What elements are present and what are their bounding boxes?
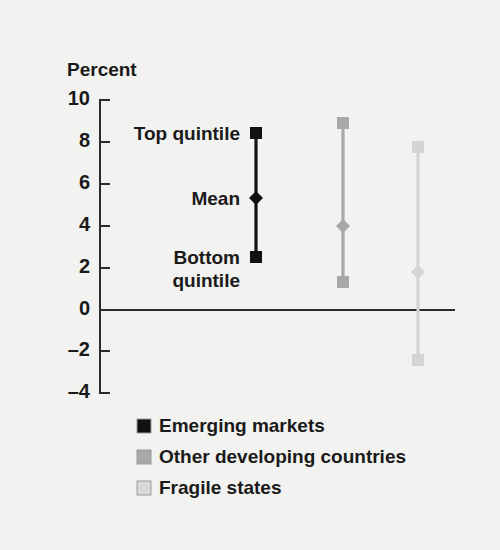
y-tick-label-10: 10 (68, 87, 90, 109)
annotation-mean: Mean (191, 188, 240, 209)
chart-figure: Percent 10 8 6 4 2 0 –2 –4 Top quintile … (0, 0, 500, 550)
chart-svg: Percent 10 8 6 4 2 0 –2 –4 Top quintile … (0, 0, 500, 550)
series-emerging-bottom-quintile-marker (250, 251, 262, 263)
legend-item-fragile-states[interactable]: Fragile states (137, 477, 282, 498)
y-tick-label-minus2: –2 (68, 338, 90, 360)
y-tick-label-8: 8 (79, 129, 90, 151)
y-tick-label-2: 2 (79, 255, 90, 277)
legend-swatch-icon (137, 450, 151, 464)
series-fragile-bottom-quintile-marker (412, 354, 424, 366)
annotation-bottom-quintile-line2: quintile (172, 270, 240, 291)
annotation-top-quintile: Top quintile (134, 123, 240, 144)
legend-swatch-icon (137, 481, 151, 495)
legend-item-other-developing-countries[interactable]: Other developing countries (137, 446, 406, 467)
chart-background (0, 0, 500, 550)
legend-label-emerging-markets: Emerging markets (159, 415, 325, 436)
annotation-bottom-quintile-line1: Bottom (174, 247, 240, 268)
series-fragile-top-quintile-marker (412, 141, 424, 153)
y-tick-label-minus4: –4 (68, 380, 91, 402)
legend-label-fragile-states: Fragile states (159, 477, 282, 498)
series-other-bottom-quintile-marker (337, 276, 349, 288)
y-tick-label-6: 6 (79, 171, 90, 193)
y-axis-title: Percent (67, 59, 137, 80)
y-tick-label-4: 4 (79, 213, 91, 235)
legend-label-other-developing-countries: Other developing countries (159, 446, 406, 467)
legend-item-emerging-markets[interactable]: Emerging markets (137, 415, 325, 436)
legend-swatch-icon (137, 419, 151, 433)
series-emerging-top-quintile-marker (250, 127, 262, 139)
series-other-top-quintile-marker (337, 117, 349, 129)
y-tick-label-0: 0 (79, 297, 90, 319)
